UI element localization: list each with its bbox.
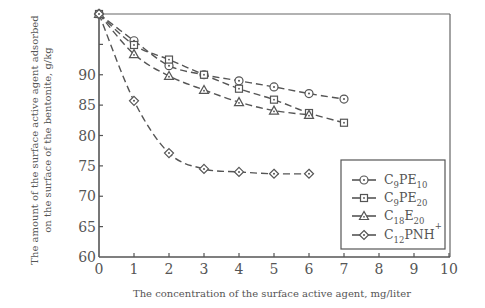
y-tick-label: 80 <box>78 128 96 144</box>
y-tick-label: 65 <box>78 219 96 235</box>
y-axis-title-line1: The amount of the surface active agent a… <box>29 15 40 265</box>
x-tick-label: 8 <box>375 261 384 277</box>
legend: C9PE10C9PE20C18E20C12PNH+ <box>341 160 445 249</box>
y-tick-label: 70 <box>78 188 96 204</box>
y-tick-label: 90 <box>78 67 96 83</box>
x-tick-label: 10 <box>440 261 458 277</box>
y-tick-label: 85 <box>78 97 96 113</box>
x-tick-label: 2 <box>165 261 174 277</box>
x-axis-title: The concentration of the surface active … <box>133 288 411 299</box>
x-tick-label: 9 <box>410 261 419 277</box>
x-tick-label: 7 <box>340 261 349 277</box>
y-axis-title-line2: on the surface of the bentonite, g/kg <box>42 47 53 233</box>
x-tick-label: 5 <box>270 261 279 277</box>
x-tick-label: 6 <box>305 261 314 277</box>
series-layer <box>95 10 349 179</box>
series-line <box>99 14 344 123</box>
y-tick-label: 60 <box>78 249 96 265</box>
triangle-marker-icon <box>165 71 174 79</box>
y-tick-label: 75 <box>78 158 96 174</box>
x-tick-label: 3 <box>200 261 209 277</box>
triangle-marker-icon <box>200 85 209 93</box>
line-chart: 012345678910 60657075808590 The concentr… <box>0 0 485 308</box>
x-tick-label: 1 <box>130 261 139 277</box>
series-c9pe20 <box>96 11 348 127</box>
x-tick-label: 4 <box>235 261 244 277</box>
